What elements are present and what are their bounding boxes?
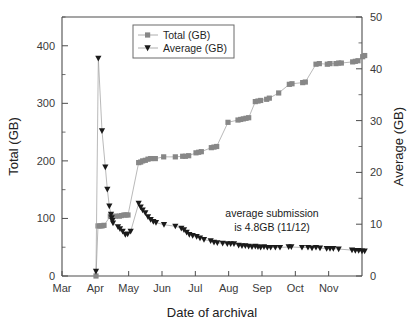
x-tick-label-Mar: Mar [53, 282, 72, 294]
x-tick-label-Jul: Jul [188, 282, 202, 294]
y-tick-label-0: 0 [49, 270, 55, 282]
average-point [104, 187, 110, 193]
y2-tick-label-0: 0 [370, 270, 376, 282]
x-tick-label-Aug: Aug [219, 282, 239, 294]
x-tick-label-May: May [118, 282, 139, 294]
total-point [258, 98, 263, 103]
chart-plot-area: MarAprMayJunJulAugSepOctNov 010020030040… [0, 0, 417, 328]
x-tick-label-Oct: Oct [287, 282, 304, 294]
x-axis-title: Date of archival [167, 305, 257, 320]
y-axis-left-ticks: 0100200300400 [37, 17, 68, 282]
total-point [327, 61, 332, 66]
legend-label-average: Average (GB) [163, 42, 227, 54]
y2-tick-label-10: 10 [370, 218, 382, 230]
x-tick-label-Apr: Apr [87, 282, 104, 294]
total-point [148, 156, 153, 161]
total-point [153, 156, 158, 161]
total-point [246, 115, 251, 120]
y-axis-left-title: Total (GB) [6, 117, 21, 176]
chart-legend: Total (GB)Average (GB) [133, 25, 234, 58]
y-tick-label-300: 300 [37, 97, 55, 109]
total-point [225, 120, 230, 125]
total-point [173, 154, 178, 159]
total-point [161, 154, 166, 159]
x-tick-label-Jun: Jun [153, 282, 171, 294]
average-point [106, 203, 112, 209]
annotation-line-1: average submission [225, 207, 319, 219]
total-point [339, 60, 344, 65]
chart-annotations: average submissionis 4.8GB (11/12) [225, 207, 319, 233]
y-tick-label-100: 100 [37, 212, 55, 224]
y-axis-right-title: Average (GB) [391, 107, 406, 186]
average-point [99, 128, 105, 134]
y-tick-label-400: 400 [37, 40, 55, 52]
total-point [199, 149, 204, 154]
total-point [101, 223, 106, 228]
legend-label-total: Total (GB) [163, 29, 210, 41]
total-point [125, 212, 130, 217]
y-tick-label-200: 200 [37, 155, 55, 167]
series-average [93, 56, 368, 275]
total-point [303, 79, 308, 84]
total-point [214, 144, 219, 149]
average-point [110, 221, 116, 227]
total-point [186, 153, 191, 158]
x-tick-label-Nov: Nov [319, 282, 339, 294]
average-point [95, 56, 101, 62]
average-point [102, 165, 108, 171]
total-point [317, 61, 322, 66]
chart-container: MarAprMayJunJulAugSepOctNov 010020030040… [0, 0, 417, 328]
total-point [362, 53, 367, 58]
x-tick-label-Sep: Sep [252, 282, 272, 294]
total-point [289, 81, 294, 86]
y2-tick-label-30: 30 [370, 115, 382, 127]
y2-tick-label-50: 50 [370, 11, 382, 23]
annotation-line-2: is 4.8GB (11/12) [234, 221, 310, 233]
y2-tick-label-20: 20 [370, 166, 382, 178]
total-point [267, 96, 272, 101]
square-marker-icon [145, 32, 150, 37]
total-point [355, 58, 360, 63]
y-axis-right-ticks: 01020304050 [356, 11, 382, 282]
average-point [172, 224, 178, 230]
y2-tick-label-40: 40 [370, 63, 382, 75]
total-point [276, 90, 281, 95]
